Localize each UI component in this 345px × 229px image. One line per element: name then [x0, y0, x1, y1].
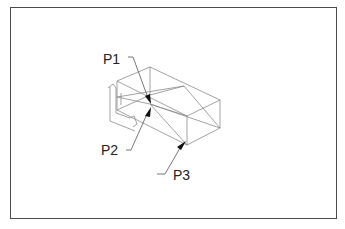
callout-p3: P3: [157, 141, 190, 183]
arrow-p2-icon: [145, 107, 151, 117]
label-p2: P2: [101, 142, 118, 158]
label-p1: P1: [103, 51, 120, 67]
box-wireframe: [117, 67, 220, 145]
label-p3: P3: [173, 167, 190, 183]
wireframe-diagram: P1 P2 P3: [0, 0, 345, 229]
